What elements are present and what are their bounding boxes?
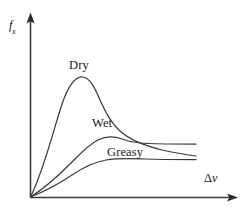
x-axis-label-symbol: v: [212, 171, 218, 185]
y-axis-label: fx: [9, 19, 16, 34]
x-axis-group: [31, 193, 239, 201]
curve-label-dry: Dry: [69, 59, 89, 72]
delta-symbol: Δ: [204, 171, 212, 185]
curve-label-greasy: Greasy: [107, 146, 143, 159]
friction-curve-figure: fx Δv Dry Wet Greasy: [0, 0, 246, 216]
y-axis-label-subscript: x: [12, 26, 16, 36]
y-axis-group: [26, 13, 34, 198]
curve-label-wet: Wet: [92, 117, 112, 130]
x-axis-label: Δv: [204, 172, 218, 185]
